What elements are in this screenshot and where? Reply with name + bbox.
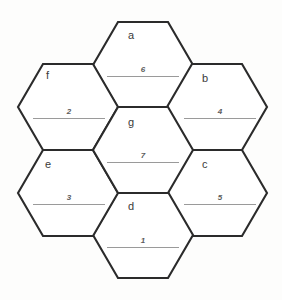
cell-letter-g: g: [128, 117, 134, 128]
clue-number-e: 3: [49, 194, 89, 202]
cell-letter-a: a: [128, 30, 134, 41]
clue-number-b: 4: [200, 108, 240, 116]
clue-number-d: 1: [123, 237, 163, 245]
answer-line-c[interactable]: [184, 204, 256, 205]
hexagon-puzzle-figure: 6a4b5c1d3e2f7g: [0, 0, 282, 300]
clue-number-f: 2: [49, 108, 89, 116]
answer-line-b[interactable]: [184, 118, 256, 119]
answer-line-d[interactable]: [107, 247, 179, 248]
cell-letter-d: d: [128, 201, 134, 212]
answer-line-f[interactable]: [33, 118, 105, 119]
cell-letter-b: b: [202, 73, 208, 84]
clue-number-c: 5: [200, 194, 240, 202]
answer-line-e[interactable]: [33, 204, 105, 205]
cell-letter-f: f: [46, 70, 49, 81]
answer-line-g[interactable]: [107, 162, 179, 163]
cell-letter-c: c: [202, 159, 208, 170]
hexagon-grid-svg: [0, 0, 282, 300]
answer-line-a[interactable]: [107, 76, 179, 77]
cell-letter-e: e: [45, 159, 51, 170]
clue-number-a: 6: [123, 66, 163, 74]
clue-number-g: 7: [123, 152, 163, 160]
